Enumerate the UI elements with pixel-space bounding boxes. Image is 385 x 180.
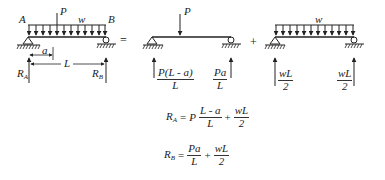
- equals-sign: =: [120, 34, 127, 46]
- reaction-b-symbol: R: [92, 67, 99, 79]
- reaction-b-numerator: wL: [337, 68, 352, 81]
- equation-rb-subscript: B: [171, 154, 175, 162]
- point-load-label: P: [184, 6, 191, 17]
- reaction-a-denominator: L: [171, 80, 179, 92]
- equation-ra-subscript: A: [173, 116, 177, 124]
- support-b-label: B: [108, 14, 115, 25]
- equation-rb-plus: +: [204, 149, 210, 161]
- fraction-numerator: wL: [234, 105, 249, 118]
- reaction-b-denominator: 2: [341, 81, 349, 93]
- distributed-load-arrows: [29, 25, 105, 35]
- pin-support-icon: [147, 37, 157, 44]
- equation-rb-equals: =: [178, 149, 184, 161]
- pin-support-icon: [23, 37, 33, 44]
- dimension-l-label: L: [64, 58, 70, 69]
- fraction-denominator: L: [191, 156, 197, 168]
- equation-ra: RA = P L - a L + wL 2: [166, 105, 249, 129]
- equation-rb: RB = Pa L + wL 2: [164, 143, 229, 167]
- equation-rb-lhs: RB: [164, 148, 175, 162]
- fraction-numerator: L - a: [199, 105, 222, 118]
- distributed-load-label: w: [78, 14, 85, 25]
- equation-rb-symbol: R: [164, 148, 171, 160]
- reaction-a-numerator: wL: [278, 68, 293, 81]
- reaction-a-numerator: P(L - a): [157, 67, 194, 80]
- fraction-numerator: Pa: [187, 143, 201, 156]
- reaction-b-fraction: Pa L: [213, 67, 227, 91]
- equation-ra-fraction-2: wL 2: [234, 105, 249, 129]
- reaction-a-subscript: A: [24, 73, 28, 81]
- equation-ra-fraction-1: L - a L: [199, 105, 222, 129]
- fraction-numerator: wL: [214, 143, 229, 156]
- reaction-a-fraction: wL 2: [278, 68, 293, 92]
- equation-ra-symbol: R: [166, 110, 173, 122]
- equation-rb-fraction-1: Pa L: [187, 143, 201, 167]
- equation-ra-plus: +: [225, 111, 231, 123]
- fraction-denominator: 2: [219, 156, 225, 168]
- reaction-b-fraction: wL 2: [337, 68, 352, 92]
- reaction-b-denominator: L: [216, 80, 224, 92]
- support-a-label: A: [19, 14, 26, 25]
- plus-sign: +: [250, 36, 257, 48]
- reaction-b-numerator: Pa: [213, 67, 227, 80]
- reaction-a-denominator: 2: [282, 81, 290, 93]
- reaction-b-subscript: B: [99, 73, 103, 81]
- reaction-a-label: RA: [17, 68, 28, 81]
- roller-support-icon: [103, 37, 109, 43]
- fraction-denominator: 2: [239, 118, 245, 130]
- reaction-b-label: RB: [92, 68, 103, 81]
- distributed-load-arrows: [276, 25, 353, 35]
- equation-ra-lhs: RA: [166, 110, 177, 124]
- pin-support-icon: [270, 37, 280, 44]
- roller-support-icon: [228, 37, 234, 43]
- dimension-a-label: a: [42, 45, 48, 56]
- equation-rb-fraction-2: wL 2: [214, 143, 229, 167]
- reaction-a-fraction: P(L - a) L: [157, 67, 194, 91]
- distributed-load-label: w: [315, 14, 322, 25]
- reaction-a-symbol: R: [17, 67, 24, 79]
- equation-ra-coefficient: P: [189, 111, 196, 123]
- fraction-denominator: L: [207, 118, 213, 130]
- point-load-label: P: [60, 6, 67, 17]
- equation-ra-equals: =: [180, 111, 186, 123]
- roller-support-icon: [351, 37, 357, 43]
